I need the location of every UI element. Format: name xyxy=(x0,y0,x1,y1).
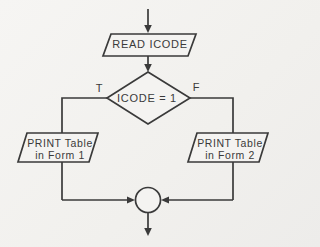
flowchart-canvas: READ ICODE ICODE = 1 T F PRINT Table in … xyxy=(0,0,286,247)
false-branch-line xyxy=(190,98,233,133)
print-form2-label-line1: PRINT Table xyxy=(197,137,263,149)
true-branch-line xyxy=(62,98,107,133)
merge-left-arrowhead-icon xyxy=(127,196,135,203)
print-form1-label-line2: in Form 1 xyxy=(35,149,85,161)
flowchart-diagram: READ ICODE ICODE = 1 T F PRINT Table in … xyxy=(0,0,286,247)
merge-right-arrowhead-icon xyxy=(161,196,169,203)
entry-arrowhead-icon xyxy=(144,25,152,33)
decision-label: ICODE = 1 xyxy=(117,92,177,104)
true-branch-label: T xyxy=(96,82,103,94)
decision-arrowhead-icon xyxy=(144,64,152,72)
print-form2-label-line2: in Form 2 xyxy=(205,149,255,161)
false-branch-label: F xyxy=(193,81,200,93)
print-form1-label-line1: PRINT Table xyxy=(27,137,93,149)
merge-connector-circle xyxy=(136,188,161,213)
read-icode-label: READ ICODE xyxy=(112,38,187,50)
exit-arrowhead-icon xyxy=(144,228,152,236)
